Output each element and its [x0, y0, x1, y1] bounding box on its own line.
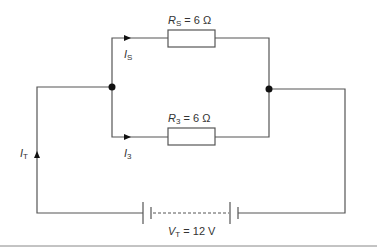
right-junction-node — [266, 86, 273, 93]
bottom-branch-left-wire — [112, 87, 168, 137]
left-junction-node — [109, 84, 116, 91]
top-branch-left-wire — [112, 38, 168, 87]
bottom-branch-current-label: I3 — [124, 147, 132, 161]
circuit-diagram: RS = 6 Ω R3 = 6 Ω IS I3 IT VT = 12 V — [0, 0, 377, 250]
top-resistor-label: RS = 6 Ω — [168, 14, 211, 28]
top-branch — [112, 30, 269, 89]
top-current-arrow-icon — [124, 35, 131, 41]
battery-symbol — [143, 202, 238, 224]
top-branch-right-wire — [215, 38, 269, 89]
bottom-resistor — [168, 128, 215, 145]
top-resistor — [168, 30, 215, 47]
bottom-current-arrow-icon — [124, 134, 131, 140]
source-voltage-label: VT = 12 V — [168, 225, 216, 239]
top-branch-current-label: IS — [124, 48, 132, 62]
total-current-label: IT — [20, 147, 28, 161]
left-wire — [37, 87, 143, 213]
bottom-resistor-label: R3 = 6 Ω — [168, 112, 210, 126]
right-wire — [238, 89, 345, 213]
bottom-branch-right-wire — [215, 89, 269, 137]
outer-loop-wires — [37, 87, 345, 213]
total-current-arrow-icon — [34, 151, 40, 158]
